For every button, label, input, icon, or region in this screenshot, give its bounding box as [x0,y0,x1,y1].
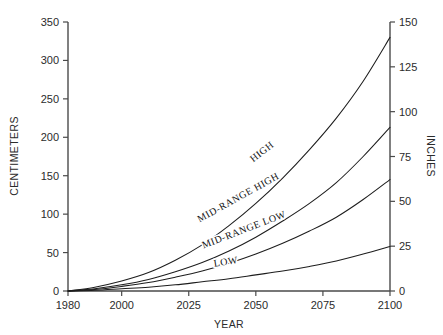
right-tick-label: 0 [399,285,405,297]
left-tick-label: 200 [41,131,59,143]
left-tick-label: 100 [41,208,59,220]
right-tick-label: 100 [399,106,417,118]
right-tick-label: 150 [399,16,417,28]
right-tick-label: 50 [399,195,411,207]
left-tick-label: 350 [41,16,59,28]
right-tick-label: 25 [399,240,411,252]
y2-axis-title: INCHES [425,135,437,177]
chart-canvas: 050100150200250300350 0255075100125150 1… [0,0,443,335]
sea-level-projection-chart: 050100150200250300350 0255075100125150 1… [0,0,443,335]
bottom-tick-label: 2025 [177,299,201,311]
left-tick-label: 300 [41,54,59,66]
left-tick-label: 0 [53,285,59,297]
x-axis-title: YEAR [214,318,244,330]
right-tick-label: 125 [399,61,417,73]
left-tick-label: 150 [41,170,59,182]
left-tick-label: 50 [47,247,59,259]
left-tick-label: 250 [41,93,59,105]
bottom-tick-label: 2050 [244,299,268,311]
bottom-tick-label: 2000 [109,299,133,311]
chart-background [0,0,443,335]
bottom-tick-label: 1980 [56,299,80,311]
bottom-tick-label: 2100 [378,299,402,311]
y-axis-title: CENTIMETERS [8,116,20,196]
right-tick-label: 75 [399,151,411,163]
bottom-tick-label: 2075 [311,299,335,311]
